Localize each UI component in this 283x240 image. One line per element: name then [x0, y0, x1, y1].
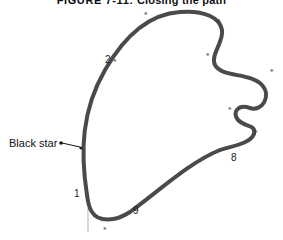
callout-dot	[59, 141, 63, 145]
anchor-star-icon: *	[270, 68, 274, 76]
closed-path	[83, 12, 266, 220]
anchor-star-icon: *	[228, 106, 232, 114]
anchor-star-icon: *	[113, 58, 117, 66]
callout-leader-line	[62, 143, 80, 147]
anchor-star-icon: *	[103, 226, 107, 234]
point-label-2: 2	[105, 54, 111, 65]
callout-label: Black star	[9, 137, 58, 149]
anchor-star-icon: *	[144, 11, 148, 19]
black-star-icon	[79, 146, 82, 149]
point-label-9: 9	[133, 205, 139, 216]
anchor-star-icon: *	[217, 18, 221, 26]
point-label-1: 1	[74, 188, 80, 199]
path-diagram: * * * * * * * * Black star 1 2 8 9	[0, 0, 283, 240]
point-label-8: 8	[231, 152, 237, 163]
anchor-star-icon: *	[254, 129, 258, 137]
anchor-star-icon: *	[206, 52, 210, 60]
